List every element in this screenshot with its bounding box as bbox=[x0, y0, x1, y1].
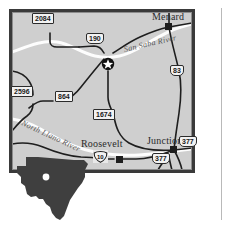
map-figure: Menard Junction Roosevelt San Saba River… bbox=[0, 0, 225, 228]
route-shield-377-east[interactable]: 377 bbox=[179, 136, 197, 147]
route-shield-83[interactable]: 83 bbox=[170, 65, 184, 76]
city-marker-junction bbox=[170, 146, 177, 153]
route-shield-2084[interactable]: 2084 bbox=[32, 13, 54, 24]
city-marker-roosevelt-jct bbox=[116, 156, 123, 163]
route-shield-1674[interactable]: 1674 bbox=[93, 109, 115, 120]
page-rule-divider bbox=[221, 8, 222, 220]
city-marker-menard bbox=[165, 23, 172, 30]
route-shield-864[interactable]: 864 bbox=[55, 91, 73, 102]
route-shield-190[interactable]: 190 bbox=[86, 33, 104, 44]
star-city-marker bbox=[102, 58, 114, 70]
route-shield-2596[interactable]: 2596 bbox=[11, 86, 33, 97]
route-shield-377-south[interactable]: 377 bbox=[152, 153, 170, 164]
inset-locator-dot bbox=[43, 174, 50, 181]
texas-state-inset bbox=[12, 150, 100, 226]
